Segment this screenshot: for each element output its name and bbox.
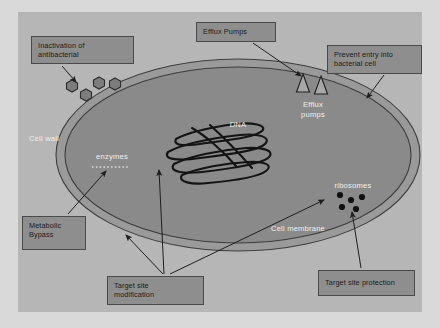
free-label-efflux-pumps-inline: Efflux pumps: [295, 100, 331, 119]
label-box-target-site-protection[interactable]: Target site protection: [318, 270, 415, 296]
ribosome: [348, 197, 354, 203]
antibiotic-molecule: [110, 78, 121, 90]
label-box-efflux-pumps[interactable]: Efflux Pumps: [196, 22, 276, 42]
free-label-enzymes: enzymes: [90, 152, 134, 162]
ribosome: [359, 194, 365, 200]
label-box-metabolic-bypass[interactable]: Metabolic Bypass: [22, 216, 86, 250]
diagram-figure: Inactivation of antibacterial Efflux Pum…: [0, 0, 440, 328]
label-box-inactivation-of-antibacterial[interactable]: Inactivation of antibacterial: [31, 36, 134, 64]
label-box-target-site-modification[interactable]: Target site modification: [107, 276, 204, 305]
antibiotic-molecule: [94, 77, 105, 89]
label-box-prevent-entry-into-bacterial-cell[interactable]: Prevent entry into bacterial cell: [327, 45, 422, 74]
ribosome: [337, 192, 343, 198]
free-label-cell-membrane: Cell membrane: [263, 224, 333, 234]
arrow-inactivation-to-molecules: [62, 66, 76, 82]
free-label-dna: DNA: [223, 120, 253, 130]
free-label-cell-wall: Cell wall: [20, 134, 68, 144]
ribosome: [353, 206, 359, 212]
ribosome: [339, 204, 345, 210]
free-label-ribosomes: ribosomes: [327, 181, 379, 191]
antibiotic-molecule: [81, 89, 92, 101]
